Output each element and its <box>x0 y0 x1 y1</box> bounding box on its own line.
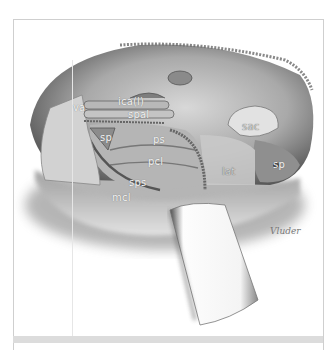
label-pcl: pcl <box>148 157 163 167</box>
label-va: va <box>73 103 85 113</box>
label-lat: lat <box>222 167 235 177</box>
label-sp-right: sp <box>273 160 285 170</box>
label-spal: spal <box>128 110 149 120</box>
label-sac: sac <box>242 122 259 132</box>
artist-signature: Vluder <box>270 226 301 236</box>
label-mcl: mcl <box>112 193 131 203</box>
label-ica: ica(l) <box>118 97 144 107</box>
label-sps: sps <box>129 178 146 188</box>
label-sp-left: sp <box>100 133 112 143</box>
bottom-strip <box>13 336 323 343</box>
label-ps: ps <box>153 135 165 145</box>
